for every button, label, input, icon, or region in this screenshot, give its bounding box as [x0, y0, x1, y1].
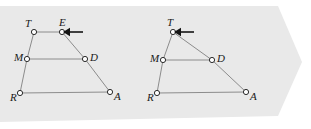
vertex-r[interactable] [154, 90, 159, 95]
segment-rm [20, 59, 27, 93]
segment-mt [27, 32, 34, 59]
vertex-label-e: E [58, 16, 66, 28]
vertex-label-m: M [13, 51, 24, 63]
vertex-m[interactable] [160, 57, 165, 62]
vertex-label-t: T [25, 17, 32, 29]
vertex-label-t: T [167, 16, 174, 28]
vertex-d[interactable] [82, 56, 87, 61]
segment-ed [62, 32, 85, 59]
vertex-m[interactable] [24, 56, 29, 61]
segment-ar [157, 92, 246, 93]
segment-mt [163, 32, 173, 60]
vertex-r[interactable] [17, 90, 22, 95]
vertex-a[interactable] [107, 89, 112, 94]
vertex-label-r: R [146, 91, 154, 103]
figure-trapezoid-tmrad: TEDARM [9, 16, 121, 103]
segment-rm [157, 60, 163, 93]
vertex-a[interactable] [243, 89, 248, 94]
segment-da [85, 59, 110, 92]
vertex-label-a: A [249, 90, 257, 102]
segment-da [212, 60, 246, 92]
diagram-canvas: TEDARMTDARM [0, 0, 311, 129]
vertex-label-a: A [113, 90, 121, 102]
vertex-d[interactable] [209, 57, 214, 62]
vertex-t[interactable] [31, 29, 36, 34]
figures-layer: TEDARMTDARM [0, 0, 311, 129]
vertex-label-d: D [89, 51, 98, 63]
figure-triangle-tmrad: TDARM [146, 16, 257, 103]
vertex-label-r: R [9, 91, 17, 103]
segment-td [173, 32, 212, 60]
drag-arrow-left [63, 28, 83, 36]
vertex-label-d: D [216, 52, 225, 64]
vertex-label-m: M [149, 52, 160, 64]
segment-ar [20, 92, 110, 93]
